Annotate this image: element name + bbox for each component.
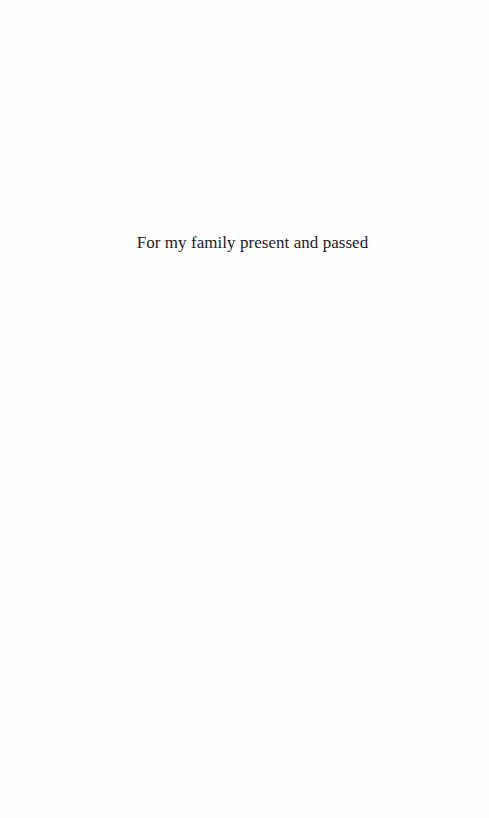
book-page: For my family present and passed — [0, 0, 489, 818]
dedication-text: For my family present and passed — [0, 232, 489, 254]
